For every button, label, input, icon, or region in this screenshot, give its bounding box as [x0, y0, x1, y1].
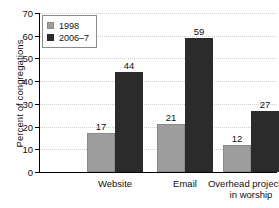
x-axis-category-label-line: in worship [201, 189, 279, 200]
bar: 44 [115, 72, 143, 172]
y-axis-tick [35, 127, 39, 128]
y-axis-tick-label: 30 [22, 98, 33, 109]
bar: 12 [223, 145, 251, 172]
y-axis-tick [35, 36, 39, 37]
chart-legend: 19982006–7 [42, 15, 97, 48]
bar-group: 1227 [223, 13, 279, 172]
y-axis-tick-label: 0 [28, 167, 33, 178]
y-axis-tick-label: 50 [22, 53, 33, 64]
legend-swatch-icon [47, 34, 54, 41]
y-axis-tick [35, 149, 39, 150]
bar-value-label: 27 [260, 99, 271, 110]
y-axis-tick [35, 81, 39, 82]
bar-value-label: 44 [124, 60, 135, 71]
x-axis-category-label: Overhead projectorsin worship [201, 178, 279, 200]
bar: 21 [157, 124, 185, 172]
y-axis-tick [35, 172, 39, 173]
bar: 17 [87, 133, 115, 172]
y-axis-tick [35, 58, 39, 59]
legend-item: 1998 [47, 20, 89, 31]
bar-group: 2159 [157, 13, 213, 172]
bar-value-label: 12 [232, 133, 243, 144]
y-axis-tick-label: 70 [22, 8, 33, 19]
bar-value-label: 59 [194, 26, 205, 37]
y-axis-tick-label: 20 [22, 121, 33, 132]
y-axis-line [39, 13, 40, 172]
y-axis-tick-label: 60 [22, 30, 33, 41]
legend-label: 2006–7 [59, 33, 89, 43]
y-axis-tick [35, 104, 39, 105]
y-axis-tick [35, 13, 39, 14]
bar: 59 [185, 38, 213, 172]
legend-item: 2006–7 [47, 32, 89, 43]
legend-label: 1998 [59, 21, 79, 31]
y-axis-tick-label: 10 [22, 144, 33, 155]
legend-swatch-icon [47, 22, 54, 29]
bar-value-label: 17 [96, 121, 107, 132]
y-axis-tick-label: 40 [22, 76, 33, 87]
bar-value-label: 21 [166, 112, 177, 123]
x-axis-category-label-line: Overhead projectors [201, 178, 279, 189]
bar-chart: Percent of congregations 010203040506070… [0, 0, 279, 208]
bar: 27 [251, 111, 279, 172]
